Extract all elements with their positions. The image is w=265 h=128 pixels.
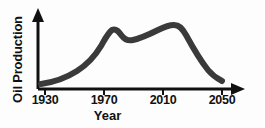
x-tick-label-1970: 1970 <box>91 93 118 107</box>
oil-production-chart: Oil Production 1930 1970 2010 2050 Year <box>0 0 265 128</box>
x-axis-title: Year <box>0 108 215 123</box>
oil-production-curve <box>41 25 222 84</box>
x-tick-label-1930: 1930 <box>32 93 59 107</box>
y-axis-arrow-icon <box>32 8 44 22</box>
x-tick-label-2010: 2010 <box>150 93 177 107</box>
x-tick-label-2050: 2050 <box>209 93 236 107</box>
y-axis-title: Oil Production <box>10 12 25 108</box>
